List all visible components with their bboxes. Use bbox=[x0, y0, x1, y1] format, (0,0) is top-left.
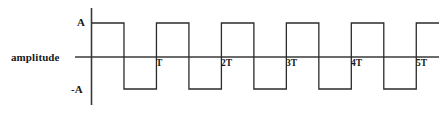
square-wave-plot bbox=[0, 0, 440, 113]
x-tick-label-2t: 2T bbox=[221, 59, 232, 69]
x-tick-label-t: T bbox=[156, 59, 162, 69]
y-tick-label-negative-a: -A bbox=[71, 84, 83, 95]
x-tick-label-5t: 5T bbox=[416, 59, 427, 69]
square-wave-trace bbox=[92, 23, 440, 89]
square-wave-figure: amplitude A -A T 2T 3T 4T 5T bbox=[0, 0, 440, 113]
y-tick-label-positive-a: A bbox=[77, 17, 85, 28]
y-axis-title: amplitude bbox=[11, 52, 60, 63]
x-tick-label-4t: 4T bbox=[351, 59, 362, 69]
x-tick-label-3t: 3T bbox=[286, 59, 297, 69]
